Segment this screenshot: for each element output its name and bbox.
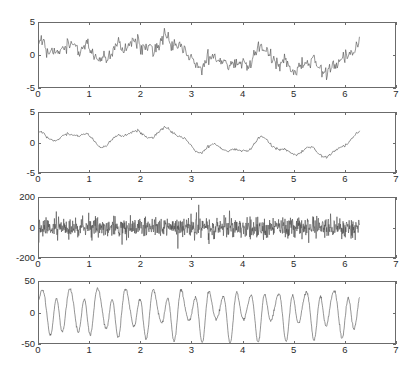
x-tickmark xyxy=(345,112,346,115)
x-tickmark xyxy=(89,281,90,284)
subplot-3: 01234567-2000200 xyxy=(38,197,396,258)
y-tickmark xyxy=(38,55,41,56)
y-tickmark xyxy=(393,55,396,56)
x-tickmark xyxy=(243,281,244,284)
x-tick-label: 0 xyxy=(35,345,40,355)
subplot-1: 01234567-505 xyxy=(38,22,396,88)
x-tick-label: 6 xyxy=(342,345,347,355)
plot-area-3 xyxy=(38,197,396,258)
y-tickmark xyxy=(38,281,41,282)
x-tickmark xyxy=(396,281,397,284)
y-tick-label: -200 xyxy=(16,253,35,263)
x-tick-label: 0 xyxy=(35,174,40,184)
figure-title xyxy=(0,1,410,11)
x-tick-label: 2 xyxy=(138,345,143,355)
y-tickmark xyxy=(38,197,41,198)
y-tickmark xyxy=(38,88,41,89)
x-tickmark xyxy=(140,112,141,115)
x-tickmark xyxy=(89,22,90,25)
x-tick-label: 5 xyxy=(291,259,296,269)
y-tick-label: -50 xyxy=(21,339,35,349)
y-tickmark xyxy=(393,228,396,229)
y-tick-label: 0 xyxy=(30,138,35,148)
x-tickmark xyxy=(140,22,141,25)
trace-signal xyxy=(39,28,359,80)
x-tickmark xyxy=(396,112,397,115)
x-tick-label: 6 xyxy=(342,259,347,269)
y-tickmark xyxy=(393,197,396,198)
y-tickmark xyxy=(393,313,396,314)
trace-oscillation xyxy=(39,288,359,343)
x-tick-label: 1 xyxy=(86,259,91,269)
x-tick-label: 5 xyxy=(291,89,296,99)
x-tick-label: 7 xyxy=(393,174,398,184)
y-tickmark xyxy=(393,143,396,144)
y-tick-label: -5 xyxy=(27,168,35,178)
figure-canvas: 01234567-50501234567-50501234567-2000200… xyxy=(0,0,410,369)
x-tickmark xyxy=(191,281,192,284)
x-tick-label: 1 xyxy=(86,345,91,355)
x-tickmark xyxy=(243,112,244,115)
x-tick-label: 6 xyxy=(342,89,347,99)
x-tickmark xyxy=(345,197,346,200)
x-tick-label: 5 xyxy=(291,174,296,184)
x-tickmark xyxy=(140,197,141,200)
x-tick-label: 4 xyxy=(240,345,245,355)
x-tickmark xyxy=(140,281,141,284)
x-tick-label: 2 xyxy=(138,259,143,269)
y-tickmark xyxy=(38,112,41,113)
y-tickmark xyxy=(393,344,396,345)
x-tick-label: 1 xyxy=(86,174,91,184)
x-tickmark xyxy=(294,281,295,284)
trace-noise-with-spikes xyxy=(39,205,359,249)
x-tick-label: 2 xyxy=(138,174,143,184)
y-tick-label: -5 xyxy=(27,83,35,93)
x-tickmark xyxy=(243,197,244,200)
x-tickmark xyxy=(191,22,192,25)
y-tickmark xyxy=(393,258,396,259)
x-tick-label: 0 xyxy=(35,89,40,99)
y-tickmark xyxy=(38,22,41,23)
subplot-2: 01234567-505 xyxy=(38,112,396,173)
x-tick-label: 7 xyxy=(393,89,398,99)
x-tickmark xyxy=(294,197,295,200)
x-tick-label: 4 xyxy=(240,174,245,184)
plot-area-1 xyxy=(38,22,396,88)
x-tick-label: 7 xyxy=(393,345,398,355)
x-tickmark xyxy=(89,112,90,115)
y-tickmark xyxy=(38,173,41,174)
x-tick-label: 3 xyxy=(189,259,194,269)
x-tickmark xyxy=(191,197,192,200)
x-tickmark xyxy=(243,22,244,25)
plot-area-4 xyxy=(38,281,396,344)
x-tickmark xyxy=(294,22,295,25)
x-tickmark xyxy=(396,197,397,200)
y-tickmark xyxy=(38,258,41,259)
x-tick-label: 3 xyxy=(189,345,194,355)
x-tickmark xyxy=(345,22,346,25)
y-tickmark xyxy=(393,112,396,113)
y-tickmark xyxy=(38,313,41,314)
y-tick-label: 200 xyxy=(19,192,35,202)
y-tick-label: 0 xyxy=(30,50,35,60)
y-tickmark xyxy=(393,22,396,23)
x-tick-label: 0 xyxy=(35,259,40,269)
x-tick-label: 6 xyxy=(342,174,347,184)
plot-area-2 xyxy=(38,112,396,173)
y-tickmark xyxy=(393,173,396,174)
subplot-4: 01234567-50050 xyxy=(38,281,396,344)
y-tickmark xyxy=(38,143,41,144)
x-tickmark xyxy=(396,22,397,25)
x-tickmark xyxy=(89,197,90,200)
x-tick-label: 2 xyxy=(138,89,143,99)
y-tickmark xyxy=(38,228,41,229)
y-tick-label: 5 xyxy=(30,17,35,27)
x-tickmark xyxy=(294,112,295,115)
x-tick-label: 4 xyxy=(240,259,245,269)
y-tickmark xyxy=(38,344,41,345)
x-tick-label: 3 xyxy=(189,89,194,99)
x-tick-label: 5 xyxy=(291,345,296,355)
y-tick-label: 0 xyxy=(30,308,35,318)
x-tick-label: 3 xyxy=(189,174,194,184)
trace-filtered-signal xyxy=(39,126,359,158)
